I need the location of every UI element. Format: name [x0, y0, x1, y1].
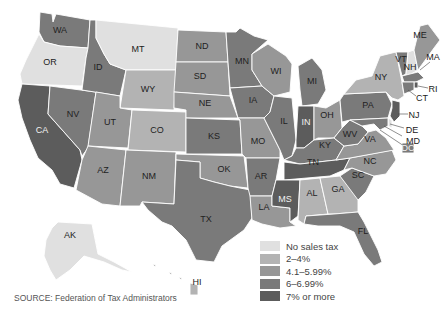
state-label-nj: NJ — [409, 110, 420, 120]
state-label-wv: WV — [343, 129, 358, 139]
state-ct[interactable] — [402, 82, 414, 94]
state-label-wy: WY — [141, 84, 156, 94]
legend-item-mid: 4.1–5.99% — [260, 265, 338, 278]
state-label-ma: MA — [426, 52, 440, 62]
state-label-ms: MS — [278, 194, 292, 204]
state-label-mo: MO — [251, 136, 266, 146]
legend: No sales tax 2–4% 4.1–5.99% 6–6.99% 7% o… — [260, 240, 338, 303]
state-label-wa: WA — [53, 25, 67, 35]
legend-item-low: 2–4% — [260, 253, 338, 266]
state-label-ks: KS — [208, 131, 220, 141]
state-label-tn: TN — [307, 157, 319, 167]
state-label-al: AL — [306, 188, 317, 198]
legend-label: 6–6.99% — [286, 278, 324, 289]
state-label-nh: NH — [404, 62, 417, 72]
legend-swatch — [260, 279, 280, 289]
legend-label: 7% or more — [286, 291, 335, 302]
state-label-sd: SD — [194, 71, 207, 81]
state-label-mi: MI — [307, 76, 317, 86]
state-label-ok: OK — [217, 164, 230, 174]
state-label-hi: HI — [193, 277, 202, 287]
state-label-dc: DC — [402, 143, 415, 153]
state-label-ny: NY — [375, 72, 388, 82]
legend-item-none: No sales tax — [260, 240, 338, 253]
state-label-or: OR — [43, 57, 57, 67]
state-label-ca: CA — [36, 125, 49, 135]
state-ri[interactable] — [414, 82, 418, 88]
state-label-fl: FL — [358, 226, 369, 236]
state-label-pa: PA — [362, 100, 373, 110]
state-label-de: DE — [406, 125, 419, 135]
state-label-id: ID — [94, 62, 104, 72]
state-label-la: LA — [258, 202, 269, 212]
state-label-va: VA — [364, 134, 375, 144]
state-label-nm: NM — [142, 171, 156, 181]
legend-swatch — [260, 241, 280, 251]
legend-swatch — [260, 266, 280, 276]
state-label-ia: IA — [249, 95, 258, 105]
state-label-co: CO — [150, 125, 164, 135]
us-map: WAORCANVIDMTWYUTCOAZNMNDSDNEKSOKTXMNIAMO… — [0, 0, 448, 316]
state-label-ri: RI — [429, 84, 438, 94]
legend-item-high: 6–6.99% — [260, 278, 338, 291]
state-label-az: AZ — [97, 165, 109, 175]
state-label-wi: WI — [271, 66, 282, 76]
state-label-il: IL — [280, 116, 288, 126]
state-hi[interactable] — [152, 264, 198, 295]
state-de[interactable] — [388, 118, 392, 128]
legend-label: 4.1–5.99% — [286, 266, 331, 277]
state-label-tx: TX — [200, 214, 212, 224]
legend-item-top: 7% or more — [260, 290, 338, 303]
state-label-mn: MN — [235, 56, 249, 66]
state-label-sc: SC — [352, 170, 365, 180]
source-note: SOURCE: Federation of Tax Administrators — [14, 293, 177, 303]
state-label-ct: CT — [416, 93, 428, 103]
state-label-nc: NC — [364, 156, 377, 166]
state-ak[interactable] — [44, 222, 132, 280]
state-label-ne: NE — [199, 98, 212, 108]
state-label-oh: OH — [320, 110, 334, 120]
legend-swatch — [260, 254, 280, 264]
state-label-nv: NV — [67, 109, 80, 119]
state-label-ak: AK — [64, 230, 76, 240]
state-label-nd: ND — [196, 41, 209, 51]
state-label-ga: GA — [331, 184, 344, 194]
legend-swatch — [260, 291, 280, 301]
state-label-mt: MT — [132, 44, 145, 54]
state-az[interactable] — [76, 146, 126, 206]
state-label-ut: UT — [104, 117, 116, 127]
legend-label: No sales tax — [286, 241, 338, 252]
state-label-me: ME — [413, 30, 427, 40]
state-label-ky: KY — [319, 140, 331, 150]
state-label-ar: AR — [255, 171, 268, 181]
legend-label: 2–4% — [286, 253, 310, 264]
state-label-in: IN — [302, 117, 311, 127]
